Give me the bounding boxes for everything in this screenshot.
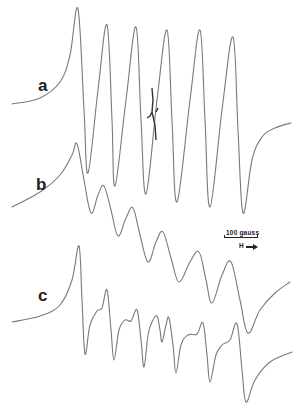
spectra-plot (0, 0, 301, 409)
spectrum-a-artifact (147, 88, 158, 140)
field-label: H (239, 242, 244, 249)
label-b: b (36, 175, 46, 195)
spectrum-c-trace (12, 246, 292, 402)
scale-bar-tick-right (257, 235, 258, 238)
esr-spectra-figure: a b c 100 gauss H (0, 0, 301, 409)
scale-bar-line (224, 237, 258, 238)
label-c: c (38, 286, 47, 306)
scale-bar-label: 100 gauss (226, 229, 259, 236)
label-a: a (38, 76, 47, 96)
scale-bar-tick-left (224, 235, 225, 238)
arrow-right-icon (253, 244, 258, 250)
